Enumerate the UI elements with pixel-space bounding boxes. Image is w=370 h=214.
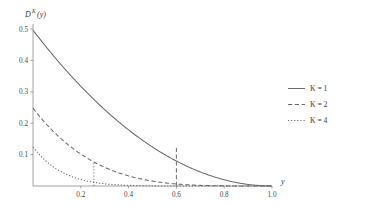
y-tick-label: 0.3 [19, 88, 28, 96]
x-tick-label: 0.8 [220, 191, 229, 199]
y-tick-label: 0.1 [19, 151, 28, 159]
chart-page: 0.1 0.2 0.3 0.4 0.5 0.2 0.4 0.6 0.8 1.0 [0, 0, 370, 214]
y-tick-label: 0.2 [19, 120, 28, 128]
curve-k-4 [33, 147, 272, 186]
y-axis-title-base: D [24, 10, 31, 19]
y-tick-label: 0.4 [19, 57, 28, 65]
legend-label-k-4: K = 4 [310, 116, 328, 125]
x-tick-label: 0.2 [76, 191, 85, 199]
legend-label-k-1: K = 1 [310, 84, 328, 93]
y-axis-title-exponent: K [31, 8, 36, 14]
x-tick-label: 0.6 [172, 191, 181, 199]
chart-canvas: 0.1 0.2 0.3 0.4 0.5 0.2 0.4 0.6 0.8 1.0 [0, 0, 370, 214]
y-axis-title-argument: (y) [37, 10, 46, 19]
legend: K = 1 K = 2 K = 4 [288, 84, 328, 125]
y-axis-title: D K (y) [24, 8, 46, 19]
curve-k-1 [33, 30, 272, 186]
x-axis-ticks: 0.2 0.4 0.6 0.8 1.0 [76, 186, 277, 199]
legend-label-k-2: K = 2 [310, 100, 328, 109]
x-axis-title: y [280, 177, 285, 186]
y-axis-ticks: 0.1 0.2 0.3 0.4 0.5 [19, 26, 33, 160]
x-tick-label: 0.4 [124, 191, 133, 199]
x-tick-label: 1.0 [268, 191, 277, 199]
y-tick-label: 0.5 [19, 26, 28, 34]
